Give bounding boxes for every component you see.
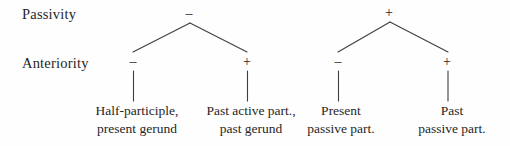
leaf-past-passive-part: Past passive part.	[418, 102, 485, 137]
leaf-present-passive-part: Present passive part.	[307, 102, 374, 137]
branch-line	[133, 23, 190, 52]
leaf-line: Past	[418, 102, 485, 120]
anteriority-sign-plus-2: +	[443, 55, 451, 69]
anteriority-sign-plus-1: +	[243, 55, 251, 69]
leaf-line: Half-participle,	[96, 102, 179, 120]
branch-line	[390, 22, 448, 52]
passivity-minus-root-sign: –	[186, 7, 193, 21]
leaf-line: present gerund	[96, 120, 179, 138]
leaf-line: passive part.	[307, 120, 374, 138]
leaf-half-participle: Half-participle, present gerund	[96, 102, 179, 137]
branch-line	[190, 23, 247, 52]
anteriority-row-label: Anteriority	[22, 55, 89, 72]
branch-line	[338, 22, 390, 52]
leaf-line: past gerund	[206, 120, 295, 138]
anteriority-sign-minus-2: –	[335, 55, 342, 69]
leaf-line: Past active part.,	[206, 102, 295, 120]
passivity-plus-root-sign: +	[385, 6, 393, 20]
leaf-line: Present	[307, 102, 374, 120]
feature-tree-diagram: Passivity Anteriority – + – + – + Half-p…	[0, 0, 510, 146]
leaf-line: passive part.	[418, 120, 485, 138]
leaf-past-active-part: Past active part., past gerund	[206, 102, 295, 137]
passivity-row-label: Passivity	[22, 6, 76, 23]
anteriority-sign-minus-1: –	[130, 55, 137, 69]
